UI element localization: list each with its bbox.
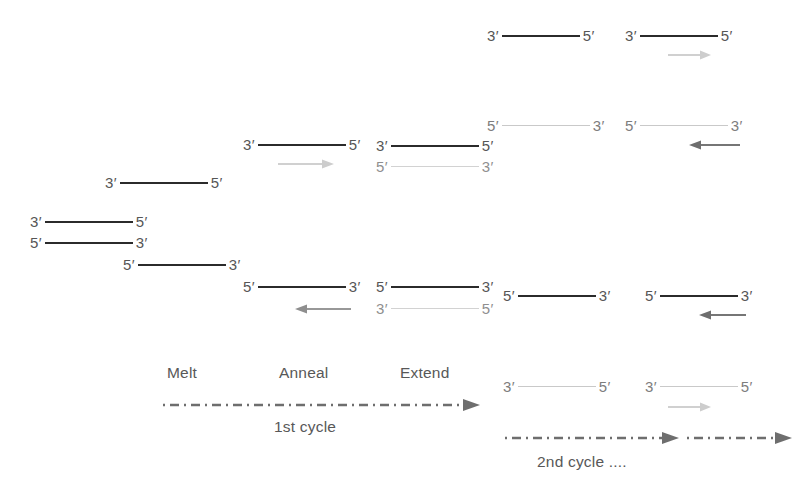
strand-end-left: 5′ xyxy=(645,287,657,304)
strand-line xyxy=(391,308,479,309)
strand-anneal-top: 3′ 5′ xyxy=(243,136,361,153)
strand-c2-melt-d: 3′ 5′ xyxy=(503,378,611,395)
strand-end-left: 5′ xyxy=(625,117,637,134)
strand-line xyxy=(502,35,580,37)
strand-line xyxy=(258,144,346,146)
strand-original-bottom: 5′ 3′ xyxy=(30,234,148,251)
strand-end-right: 3′ xyxy=(599,287,611,304)
strand-c2-anneal-c: 5′ 3′ xyxy=(645,287,753,304)
strand-end-right: 5′ xyxy=(599,378,611,395)
strand-melt-top: 3′ 5′ xyxy=(105,174,223,191)
timeline-arrow-second-cycle-a xyxy=(505,431,680,445)
strand-end-right: 5′ xyxy=(721,27,733,44)
strand-c2-melt-a: 3′ 5′ xyxy=(487,27,595,44)
strand-end-left: 3′ xyxy=(645,378,657,395)
strand-line xyxy=(45,221,133,223)
strand-end-right: 3′ xyxy=(741,287,753,304)
strand-end-right: 5′ xyxy=(482,137,494,154)
primer-arrow-c2-anneal-a xyxy=(668,49,712,61)
strand-line xyxy=(45,242,133,244)
strand-end-left: 3′ xyxy=(487,27,499,44)
strand-c2-anneal-d: 3′ 5′ xyxy=(645,378,753,395)
cycle-label-first: 1st cycle xyxy=(274,418,336,436)
strand-c2-anneal-b: 5′ 3′ xyxy=(625,117,743,134)
strand-end-left: 5′ xyxy=(503,287,515,304)
strand-end-right: 5′ xyxy=(482,300,494,317)
strand-end-right: 5′ xyxy=(741,378,753,395)
strand-end-left: 5′ xyxy=(376,158,388,175)
strand-end-left: 5′ xyxy=(376,278,388,295)
strand-end-left: 3′ xyxy=(625,27,637,44)
strand-end-right: 3′ xyxy=(482,278,494,295)
strand-extend-top-template: 3′ 5′ xyxy=(376,137,494,154)
strand-end-left: 3′ xyxy=(503,378,515,395)
strand-line xyxy=(518,386,596,387)
strand-end-right: 3′ xyxy=(593,117,605,134)
strand-end-left: 5′ xyxy=(30,234,42,251)
strand-end-right: 3′ xyxy=(229,256,241,273)
strand-end-right: 3′ xyxy=(136,234,148,251)
strand-end-left: 3′ xyxy=(376,300,388,317)
cycle-label-second: 2nd cycle .... xyxy=(537,453,627,471)
strand-end-right: 3′ xyxy=(349,278,361,295)
strand-end-left: 5′ xyxy=(243,278,255,295)
strand-end-left: 3′ xyxy=(30,213,42,230)
strand-melt-bottom: 5′ 3′ xyxy=(123,256,241,273)
strand-line xyxy=(391,166,479,167)
strand-c2-melt-c: 5′ 3′ xyxy=(503,287,611,304)
primer-arrow-c2-anneal-d xyxy=(668,401,712,413)
strand-end-left: 3′ xyxy=(105,174,117,191)
strand-end-left: 5′ xyxy=(123,256,135,273)
strand-end-left: 3′ xyxy=(376,137,388,154)
strand-line xyxy=(138,264,226,266)
pcr-diagram: 3′ 5′ 5′ 3′ 3′ 5′ 5′ 3′ 3′ 5′ 5′ 3′ xyxy=(0,0,796,492)
strand-end-right: 3′ xyxy=(731,117,743,134)
strand-end-right: 5′ xyxy=(136,213,148,230)
strand-extend-top-new: 5′ 3′ xyxy=(376,158,494,175)
strand-line xyxy=(120,182,208,184)
strand-line xyxy=(391,286,479,288)
strand-c2-anneal-a: 3′ 5′ xyxy=(625,27,733,44)
stage-label-anneal: Anneal xyxy=(279,364,328,382)
primer-arrow-anneal-top xyxy=(278,158,336,170)
strand-original-top: 3′ 5′ xyxy=(30,213,148,230)
strand-extend-bottom-template: 5′ 3′ xyxy=(376,278,494,295)
strand-line xyxy=(640,35,718,37)
strand-line xyxy=(518,295,596,297)
strand-end-right: 3′ xyxy=(482,158,494,175)
strand-line xyxy=(391,145,479,147)
strand-end-right: 5′ xyxy=(349,136,361,153)
strand-line xyxy=(258,286,346,288)
strand-end-right: 5′ xyxy=(583,27,595,44)
strand-end-left: 5′ xyxy=(487,117,499,134)
primer-arrow-anneal-bottom xyxy=(293,303,351,315)
strand-anneal-bottom: 5′ 3′ xyxy=(243,278,361,295)
primer-arrow-c2-anneal-b xyxy=(688,139,740,151)
strand-end-right: 5′ xyxy=(211,174,223,191)
strand-extend-bottom-new: 3′ 5′ xyxy=(376,300,494,317)
timeline-arrow-second-cycle-b xyxy=(687,431,793,445)
strand-line xyxy=(640,125,728,126)
strand-end-left: 3′ xyxy=(243,136,255,153)
primer-arrow-c2-anneal-c xyxy=(698,309,746,321)
stage-label-extend: Extend xyxy=(400,364,449,382)
stage-label-melt: Melt xyxy=(167,364,197,382)
timeline-arrow-first-cycle xyxy=(163,398,481,412)
strand-line xyxy=(502,125,590,126)
strand-line xyxy=(660,386,738,387)
strand-line xyxy=(660,295,738,297)
strand-c2-melt-b: 5′ 3′ xyxy=(487,117,605,134)
